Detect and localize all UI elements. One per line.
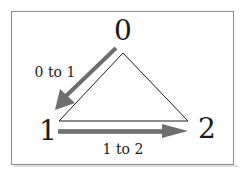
arrow-1-to-2 [58,124,188,138]
node-0-label: 0 [114,14,132,47]
triangle-outline [59,53,188,121]
node-1-label: 1 [39,114,57,147]
edge-1-2-label: 1 to 2 [103,141,144,157]
diagram-canvas: 0 1 2 0 to 1 1 to 2 [0,0,246,174]
node-2-label: 2 [198,112,216,145]
edge-0-1-label: 0 to 1 [35,64,76,80]
